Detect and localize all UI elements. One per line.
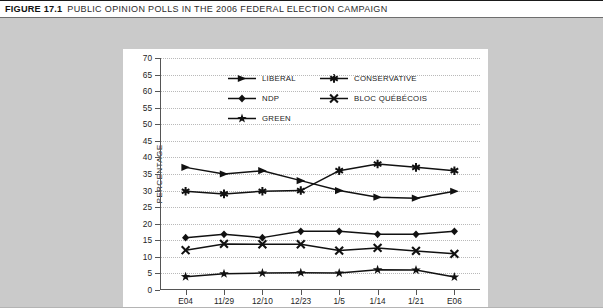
x-axis-tick-label: 1/5 — [333, 297, 345, 305]
figure-page: FIGURE 17.1 PUBLIC OPINION POLLS IN THE … — [0, 0, 603, 308]
x-axis-tick-label: 1/14 — [370, 297, 386, 305]
y-axis-tick-label: 20 — [143, 220, 152, 228]
y-axis-tick-label: 0 — [147, 286, 152, 294]
y-axis-tick-label: 25 — [143, 203, 152, 211]
x-axis-tick-label: E04 — [178, 297, 193, 305]
figure-title: PUBLIC OPINION POLLS IN THE 2006 FEDERAL… — [67, 4, 387, 14]
data-point-star — [181, 272, 191, 281]
x-axis-tick — [186, 290, 187, 295]
x-axis-tick-label: 1/21 — [408, 297, 424, 305]
series-green — [181, 265, 459, 281]
figure-background: LIBERALCONSERVATIVENDPBLOC QUÉBÉCOISGREE… — [0, 18, 603, 308]
data-point-triangle-right — [450, 188, 459, 195]
data-point-diamond — [220, 230, 227, 238]
y-axis-tick-label: 40 — [143, 153, 152, 161]
data-point-diamond — [451, 227, 458, 235]
y-axis-tick-label: 35 — [143, 170, 152, 178]
x-axis-tick — [224, 290, 225, 295]
data-point-diamond — [182, 234, 189, 242]
chart-panel: LIBERALCONSERVATIVENDPBLOC QUÉBÉCOISGREE… — [123, 49, 488, 308]
x-axis-tick-label: 12/23 — [290, 297, 311, 305]
figure-caption-bar: FIGURE 17.1 PUBLIC OPINION POLLS IN THE … — [0, 0, 603, 18]
data-point-diamond — [412, 230, 419, 238]
y-axis-tick-label: 60 — [143, 87, 152, 95]
series-ndp — [182, 227, 458, 241]
data-point-star — [411, 265, 421, 274]
data-point-triangle-right — [220, 170, 229, 177]
data-point-diamond — [297, 227, 304, 235]
x-axis-tick-label: 11/29 — [214, 297, 234, 305]
data-point-diamond — [374, 230, 381, 238]
x-axis-tick — [301, 290, 302, 295]
x-axis-tick — [262, 290, 263, 295]
y-axis-tick-label: 30 — [143, 186, 152, 194]
data-point-diamond — [336, 227, 343, 235]
y-axis-tick-label: 5 — [147, 269, 152, 277]
data-point-triangle-right — [412, 195, 421, 202]
y-axis-tick-label: 50 — [143, 120, 152, 128]
x-axis-tick — [378, 290, 379, 295]
data-point-star — [450, 272, 460, 281]
y-axis-tick-label: 15 — [143, 236, 152, 244]
data-point-star — [258, 268, 268, 277]
data-point-triangle-right — [335, 187, 344, 194]
data-point-star — [219, 269, 229, 278]
data-point-star — [373, 265, 383, 274]
x-axis-tick-label: 12/10 — [252, 297, 273, 305]
x-axis-tick — [339, 290, 340, 295]
series-bloc-qu-b-cois — [182, 240, 459, 258]
figure-number: FIGURE 17.1 — [5, 4, 62, 14]
data-point-triangle-right — [297, 177, 306, 184]
x-axis-tick-label: E06 — [447, 297, 462, 305]
data-point-triangle-right — [181, 164, 190, 171]
series-conservative — [182, 160, 458, 198]
y-axis-tick-label: 45 — [143, 137, 152, 145]
y-axis-tick-label: 10 — [143, 253, 152, 261]
y-axis-tick — [155, 290, 160, 291]
x-axis-tick — [416, 290, 417, 295]
x-axis-tick — [454, 290, 455, 295]
y-axis-tick-label: 55 — [143, 104, 152, 112]
y-axis-tick-label: 65 — [143, 70, 152, 78]
series-layer — [160, 58, 480, 290]
y-axis-tick-label: 70 — [143, 54, 152, 62]
data-point-star — [296, 268, 306, 277]
data-point-triangle-right — [258, 167, 267, 174]
plot-area: PERCENTAGE 0510152025303540455055606570 … — [160, 58, 480, 290]
data-point-triangle-right — [373, 194, 382, 201]
data-point-star — [334, 268, 344, 277]
